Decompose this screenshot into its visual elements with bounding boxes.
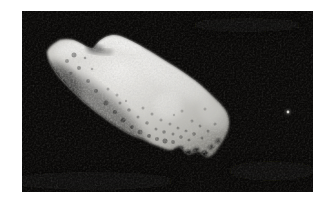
moon-dot [285,109,291,115]
asteroid-photograph [22,11,313,192]
space-scene [22,11,313,192]
photo-grain [22,11,313,192]
moon-core [287,111,290,114]
page-background [0,0,330,199]
